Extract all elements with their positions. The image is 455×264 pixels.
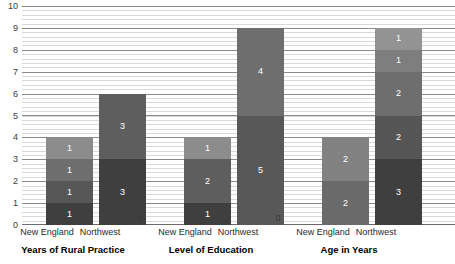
bar-segment[interactable]: 1 xyxy=(184,203,231,225)
bar-segment[interactable]: 1 xyxy=(46,159,93,181)
bar-segment[interactable]: 1 xyxy=(46,137,93,159)
bar-segment[interactable]: 2 xyxy=(375,116,422,160)
y-axis-tick-2: 2 xyxy=(13,177,18,186)
bar-segment[interactable]: 2 xyxy=(375,72,422,116)
stacked-bar-chart: 109876543210 11113301215402232211 New En… xyxy=(0,0,455,264)
y-axis-tick-6: 6 xyxy=(13,89,18,98)
bar-age-in-years-northwest[interactable]: 32211 xyxy=(375,28,422,225)
category-label-new-england: New England xyxy=(296,228,350,237)
x-axis-labels: New EnglandNorthwestYears of Rural Pract… xyxy=(22,228,455,264)
group-title-years-of-rural-practice: Years of Rural Practice xyxy=(21,245,125,255)
y-axis-tick-8: 8 xyxy=(13,45,18,54)
zero-value-label: 0 xyxy=(137,214,142,223)
category-label-northwest: Northwest xyxy=(80,228,121,237)
bar-segment[interactable]: 3 xyxy=(375,159,422,225)
bar-segment[interactable]: 1 xyxy=(184,137,231,159)
bar-segment[interactable]: 2 xyxy=(322,181,369,225)
y-axis-tick-4: 4 xyxy=(13,133,18,142)
bar-segment[interactable]: 5 xyxy=(237,116,284,226)
y-axis-tick-3: 3 xyxy=(13,155,18,164)
y-axis-tick-1: 1 xyxy=(13,199,18,208)
y-axis-tick-5: 5 xyxy=(13,111,18,120)
group-title-level-of-education: Level of Education xyxy=(169,245,253,255)
category-label-new-england: New England xyxy=(158,228,212,237)
bar-segment[interactable]: 2 xyxy=(184,159,231,203)
category-label-northwest: Northwest xyxy=(356,228,397,237)
bar-segment[interactable]: 1 xyxy=(375,50,422,72)
y-axis-tick-10: 10 xyxy=(8,2,18,11)
bar-segment[interactable]: 2 xyxy=(322,137,369,181)
bar-years-of-rural-practice-new-england[interactable]: 1111 xyxy=(46,137,93,225)
y-axis-tick-9: 9 xyxy=(13,23,18,32)
plot-area: 11113301215402232211 xyxy=(22,6,455,225)
zero-value-label: 0 xyxy=(275,214,280,223)
bar-age-in-years-new-england[interactable]: 22 xyxy=(322,137,369,225)
bar-level-of-education-new-england[interactable]: 121 xyxy=(184,137,231,225)
bar-level-of-education-northwest[interactable]: 54 xyxy=(237,28,284,225)
y-axis: 109876543210 xyxy=(0,0,22,225)
y-axis-tick-7: 7 xyxy=(13,67,18,76)
group-title-age-in-years: Age in Years xyxy=(321,245,378,255)
category-label-northwest: Northwest xyxy=(218,228,259,237)
bar-segment[interactable]: 1 xyxy=(46,181,93,203)
bar-segment[interactable]: 1 xyxy=(46,203,93,225)
bar-segment[interactable]: 4 xyxy=(237,28,284,116)
y-axis-tick-0: 0 xyxy=(13,221,18,230)
bar-years-of-rural-practice-northwest[interactable]: 33 xyxy=(99,94,146,225)
bar-segment[interactable]: 3 xyxy=(99,94,146,160)
bar-segment[interactable]: 1 xyxy=(375,28,422,50)
category-label-new-england: New England xyxy=(20,228,74,237)
